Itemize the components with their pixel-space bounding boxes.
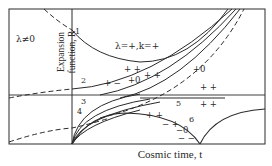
y-axis-label-line2: function, R xyxy=(67,17,78,87)
sign-near-2-upper: + + xyxy=(124,64,141,74)
sign-near-2-lower-left: + − xyxy=(104,78,121,88)
curve-annotation: λ=+,k=+ xyxy=(115,41,159,51)
cosmology-expansion-diagram: λ≠0 1 λ=+,k=+ 2 3 4 5 6 + + + − +0 + + +… xyxy=(0,0,272,166)
curve-number-6: 6 xyxy=(189,115,194,124)
sign-left-of-6: + + xyxy=(146,110,163,120)
sign-minus-minus: − − xyxy=(178,133,195,143)
x-axis-label: Cosmic time, t xyxy=(110,148,230,160)
curve-number-2: 2 xyxy=(81,76,86,85)
dashed-curve-mid-left xyxy=(9,89,72,98)
curve-number-5: 5 xyxy=(176,99,181,108)
curve-number-4: 4 xyxy=(77,107,82,116)
sign-near-2-lower-mid: +0 xyxy=(128,75,141,85)
sign-below-5: + + xyxy=(200,99,217,109)
y-axis-label: Expansion function, R xyxy=(56,17,80,87)
sign-above-5: + + xyxy=(200,82,217,92)
sign-dashed-upper: +0 xyxy=(193,64,206,74)
curve-4c xyxy=(72,110,140,144)
curve-1 xyxy=(72,9,228,62)
y-axis-label-line1: Expansion xyxy=(56,17,67,87)
curve-6-rebound xyxy=(200,109,265,144)
diagram-canvas: λ≠0 1 λ=+,k=+ 2 3 4 5 6 + + + − +0 + + +… xyxy=(0,0,272,166)
dashed-curve-long xyxy=(100,9,244,118)
sign-near-2-lower-right: + + xyxy=(144,70,161,80)
curve-number-3: 3 xyxy=(81,97,86,106)
region-label: λ≠0 xyxy=(16,34,35,44)
